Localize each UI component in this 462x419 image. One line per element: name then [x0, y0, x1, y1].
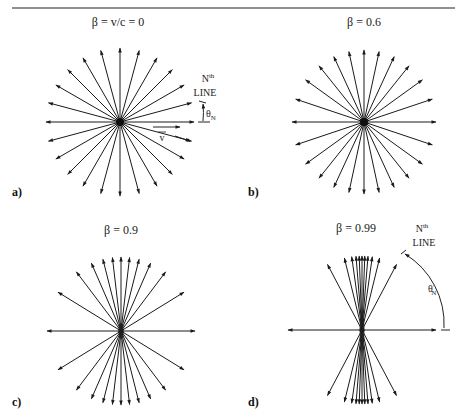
- field-line-arrow: [101, 51, 120, 123]
- charge-dot: [116, 118, 124, 126]
- panel-title: β = 0.9: [104, 223, 138, 237]
- panel-title: β = 0.99: [336, 221, 376, 235]
- theta-prime-label: θ′N: [428, 283, 436, 297]
- nth-line-tick: [401, 250, 406, 254]
- panel-label: d): [248, 395, 259, 409]
- dense-core: [119, 323, 124, 339]
- panel-title: β = v/c = 0: [92, 15, 144, 29]
- field-line-arrow: [120, 122, 139, 194]
- field-line-arrow: [328, 330, 363, 396]
- line-word-label: LINE: [194, 87, 217, 98]
- nth-label: Nth: [416, 222, 429, 234]
- panel-a: β = v/c = 0a): [12, 15, 194, 199]
- field-line-arrow: [58, 331, 121, 370]
- field-line-arrow: [362, 330, 397, 396]
- panel-title: β = 0.6: [347, 15, 381, 29]
- field-line-arrow: [364, 122, 432, 145]
- panel-d: β = 0.99d): [248, 221, 436, 409]
- field-line-arrow: [49, 103, 121, 122]
- panel-label: c): [12, 395, 21, 409]
- field-line-arrow: [296, 99, 364, 122]
- field-line-arrow: [349, 52, 364, 122]
- field-line-arrow: [121, 292, 184, 331]
- panel-c: β = 0.9c): [12, 223, 195, 409]
- panel-label: b): [248, 185, 259, 199]
- panel-label: a): [12, 185, 22, 199]
- nth-line-annotation-d: NthLINEθ′N: [401, 222, 450, 330]
- field-line-arrow: [101, 122, 120, 194]
- dense-core: [360, 316, 365, 344]
- field-line-arrow: [362, 265, 397, 331]
- field-line-arrow: [120, 103, 192, 122]
- field-line-arrow: [120, 51, 139, 123]
- nth-line-annotation-a: NthLINEθNv: [153, 72, 216, 143]
- theta-n-label: θN: [206, 108, 216, 122]
- nth-label: Nth: [202, 72, 215, 84]
- field-line-arrow: [349, 122, 364, 192]
- pointer-arrow-icon: [175, 136, 190, 141]
- field-line-arrow: [121, 331, 184, 370]
- field-line-arrow: [58, 292, 121, 331]
- field-line-arrow: [296, 122, 364, 145]
- field-line-arrow: [364, 52, 379, 122]
- line-word-label: LINE: [413, 237, 436, 248]
- nth-line-tick: [199, 101, 206, 103]
- field-line-arrow: [364, 122, 379, 192]
- theta-arc-icon: [405, 254, 444, 328]
- charge-dot: [360, 118, 368, 126]
- field-line-arrow: [364, 99, 432, 122]
- field-line-arrow: [328, 265, 363, 331]
- panel-b: β = 0.6b): [248, 15, 436, 199]
- field-lines-figure: β = v/c = 0a)β = 0.6b)β = 0.9c)β = 0.99d…: [0, 0, 462, 419]
- field-line-arrow: [49, 122, 121, 141]
- velocity-label: v: [160, 132, 165, 143]
